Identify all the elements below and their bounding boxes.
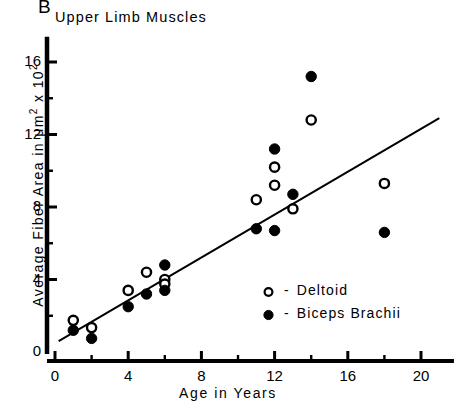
x-tick-label: 20 — [407, 367, 435, 384]
scatter-plot-canvas — [0, 0, 456, 410]
data-point-biceps-brachii — [160, 260, 170, 270]
data-point-deltoid — [252, 195, 261, 204]
data-point-biceps-brachii — [68, 325, 78, 335]
figure-panel-b: B Upper Limb Muscles 048121620 0481216 A… — [0, 0, 456, 410]
data-point-deltoid — [270, 181, 279, 190]
filled-circle-icon — [262, 308, 275, 321]
y-axis-title: Average Fiber Area in μm2 x 102 — [28, 30, 46, 340]
data-point-deltoid — [69, 316, 78, 325]
data-point-biceps-brachii — [306, 71, 316, 81]
legend-label: Deltoid — [297, 282, 348, 298]
data-point-deltoid — [270, 163, 279, 172]
legend-label: Biceps Brachii — [297, 305, 401, 321]
data-point-biceps-brachii — [123, 301, 133, 311]
y-tick-label: 0 — [9, 342, 41, 359]
x-tick-label: 12 — [261, 367, 289, 384]
x-tick-label: 4 — [114, 367, 142, 384]
x-tick-label: 0 — [41, 367, 69, 384]
open-circle-icon — [262, 285, 275, 298]
legend-dash: - — [284, 305, 290, 321]
data-point-deltoid — [87, 323, 96, 332]
legend-dash: - — [284, 282, 290, 298]
data-points — [68, 71, 389, 343]
data-point-biceps-brachii — [86, 333, 96, 343]
data-point-biceps-brachii — [269, 144, 279, 154]
data-point-deltoid — [124, 286, 133, 295]
legend-item-biceps-brachii: -Biceps Brachii — [262, 305, 401, 321]
x-tick-label: 16 — [334, 367, 362, 384]
data-point-biceps-brachii — [379, 227, 389, 237]
data-point-deltoid — [288, 204, 297, 213]
data-point-biceps-brachii — [141, 289, 151, 299]
x-tick-label: 8 — [187, 367, 215, 384]
x-axis-title: Age in Years — [0, 385, 456, 401]
data-point-biceps-brachii — [160, 285, 170, 295]
data-point-biceps-brachii — [269, 225, 279, 235]
legend-item-deltoid: -Deltoid — [262, 282, 348, 298]
data-point-biceps-brachii — [251, 224, 261, 234]
data-point-deltoid — [307, 115, 316, 124]
data-point-deltoid — [142, 268, 151, 277]
data-point-biceps-brachii — [288, 189, 298, 199]
data-point-deltoid — [380, 179, 389, 188]
